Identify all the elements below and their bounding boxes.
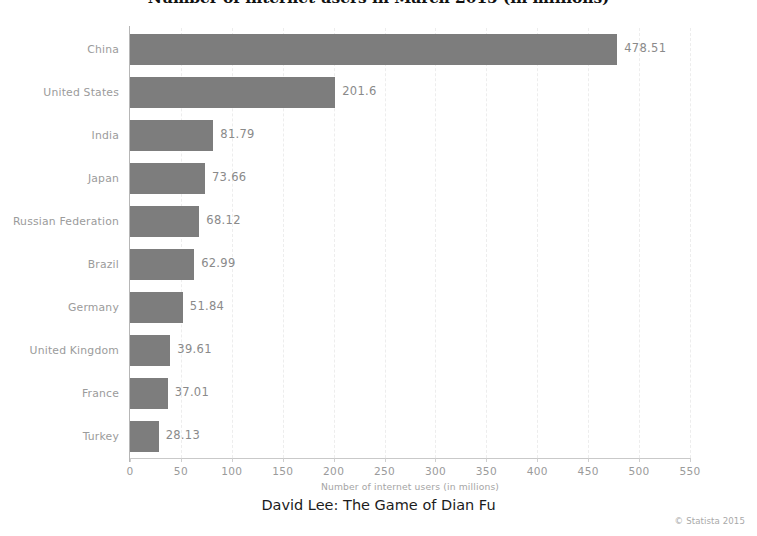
bar-value-label: 478.51 (624, 41, 666, 55)
x-tick-label-500: 500 (629, 465, 650, 477)
bar-row: 68.12 (130, 200, 690, 243)
x-tick-mark-450 (588, 458, 589, 462)
bar-row: 51.84 (130, 286, 690, 329)
bar[interactable] (130, 34, 617, 65)
bar-value-label: 62.99 (201, 256, 235, 270)
x-tick-mark-0 (130, 458, 131, 462)
bar[interactable] (130, 335, 170, 366)
x-tick-label-100: 100 (221, 465, 242, 477)
x-tick-mark-350 (486, 458, 487, 462)
x-tick-label-400: 400 (527, 465, 548, 477)
x-tick-label-300: 300 (425, 465, 446, 477)
bar[interactable] (130, 163, 205, 194)
x-tick-mark-300 (435, 458, 436, 462)
x-tick-label-0: 0 (126, 465, 133, 477)
category-label: United States (0, 86, 119, 99)
x-tick-label-350: 350 (476, 465, 497, 477)
bar-row: 39.61 (130, 329, 690, 372)
bar-row: 62.99 (130, 243, 690, 286)
bar-row: 478.51 (130, 28, 690, 71)
plot-area: 478.51201.681.7973.6668.1262.9951.8439.6… (130, 28, 690, 458)
bar-value-label: 201.6 (342, 84, 376, 98)
figure-caption: David Lee: The Game of Dian Fu (0, 497, 757, 513)
x-tick-label-250: 250 (374, 465, 395, 477)
x-tick-mark-400 (537, 458, 538, 462)
x-tick-mark-150 (283, 458, 284, 462)
category-label: Germany (0, 301, 119, 314)
bar-row: 73.66 (130, 157, 690, 200)
category-label: India (0, 129, 119, 142)
bar[interactable] (130, 206, 199, 237)
bar[interactable] (130, 249, 194, 280)
category-label: Turkey (0, 430, 119, 443)
x-tick-label-550: 550 (679, 465, 700, 477)
bar[interactable] (130, 120, 213, 151)
x-tick-label-200: 200 (323, 465, 344, 477)
x-tick-mark-500 (639, 458, 640, 462)
bar-row: 37.01 (130, 372, 690, 415)
category-label: China (0, 43, 119, 56)
bar[interactable] (130, 292, 183, 323)
x-axis-title: Number of internet users (in millions) (130, 481, 690, 492)
chart-figure: Number of internet users in March 2015 (… (0, 0, 757, 536)
chart-title: Number of internet users in March 2015 (… (0, 0, 757, 7)
bar-value-label: 81.79 (220, 127, 254, 141)
bar-value-label: 37.01 (175, 385, 209, 399)
bar-value-label: 51.84 (190, 299, 224, 313)
category-label: Japan (0, 172, 119, 185)
x-axis-spine (130, 458, 690, 459)
bar-row: 28.13 (130, 415, 690, 458)
x-tick-mark-550 (690, 458, 691, 462)
bar[interactable] (130, 77, 335, 108)
bar-row: 81.79 (130, 114, 690, 157)
x-tick-mark-250 (385, 458, 386, 462)
bar-value-label: 39.61 (177, 342, 211, 356)
bar-value-label: 68.12 (206, 213, 240, 227)
copyright-notice: © Statista 2015 (675, 516, 745, 526)
x-tick-label-450: 450 (578, 465, 599, 477)
bar[interactable] (130, 421, 159, 452)
x-tick-label-150: 150 (272, 465, 293, 477)
bar-row: 201.6 (130, 71, 690, 114)
x-tick-label-50: 50 (174, 465, 188, 477)
gridline-550 (690, 28, 692, 458)
category-label: Russian Federation (0, 215, 119, 228)
category-label: France (0, 387, 119, 400)
bar[interactable] (130, 378, 168, 409)
x-tick-mark-50 (181, 458, 182, 462)
category-label: Brazil (0, 258, 119, 271)
bar-value-label: 73.66 (212, 170, 246, 184)
category-label: United Kingdom (0, 344, 119, 357)
bar-value-label: 28.13 (166, 428, 200, 442)
x-tick-mark-200 (334, 458, 335, 462)
x-tick-mark-100 (232, 458, 233, 462)
